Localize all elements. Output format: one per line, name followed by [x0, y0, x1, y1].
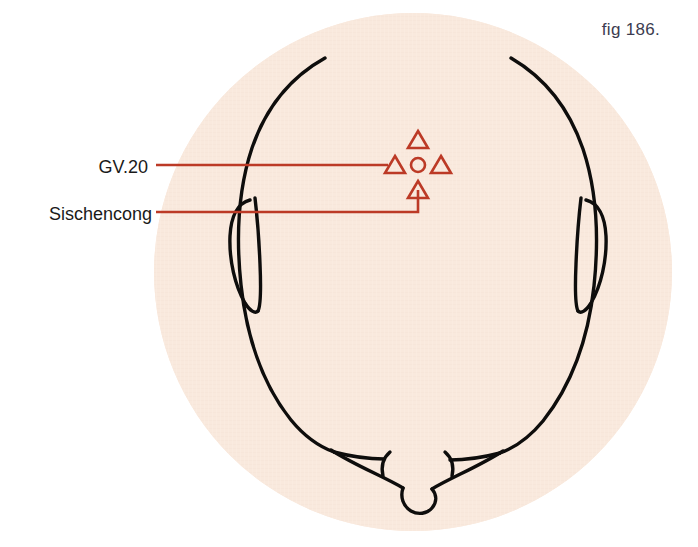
label-gv20: GV.20	[99, 157, 148, 178]
head-diagram	[0, 0, 698, 547]
label-sishencong: Sischencong	[49, 204, 152, 225]
figure-caption: fig 186.	[602, 20, 660, 40]
figure-page: fig 186. GV.20 Sischencong	[0, 0, 698, 547]
